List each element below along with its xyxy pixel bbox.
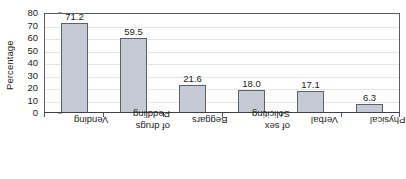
x-axis-category-label-line: Physical bbox=[370, 115, 405, 126]
bar-slot: 59.5 bbox=[104, 14, 163, 112]
x-axis-category-label: Physical bbox=[370, 115, 405, 126]
y-axis-tick-label: 40 bbox=[27, 58, 38, 68]
x-label-slot: Solicitingof sex bbox=[222, 118, 281, 176]
bar-slot: 18.0 bbox=[222, 14, 281, 112]
y-axis-tick-label: 20 bbox=[27, 83, 38, 93]
bar[interactable] bbox=[120, 38, 147, 112]
y-axis-tick-labels: 01020304050607080 bbox=[18, 8, 40, 113]
bar-slot: 71.2 bbox=[45, 14, 104, 112]
bar-chart-figure: Percentage 01020304050607080 71.259.521.… bbox=[0, 0, 406, 179]
bar-value-label: 21.6 bbox=[183, 74, 202, 84]
y-axis-tick-label: 50 bbox=[27, 46, 38, 56]
x-label-slot: Verbal bbox=[281, 118, 340, 176]
y-axis-tick-label: 80 bbox=[27, 8, 38, 18]
x-axis-tick-mark bbox=[44, 113, 45, 117]
x-label-slot: Vending bbox=[44, 118, 103, 176]
bar-value-label: 6.3 bbox=[363, 93, 376, 103]
y-axis-tick-label: 70 bbox=[27, 21, 38, 31]
x-axis-tick-mark bbox=[341, 113, 342, 117]
bar-value-label: 59.5 bbox=[124, 27, 143, 37]
bar-value-label: 71.2 bbox=[65, 12, 84, 22]
x-label-slot: Physical bbox=[341, 118, 400, 176]
plot-area: 71.259.521.618.017.16.3 bbox=[44, 13, 400, 113]
y-axis-title: Percentage bbox=[1, 18, 17, 112]
bars-layer: 71.259.521.618.017.16.3 bbox=[45, 14, 399, 112]
bar-slot: 17.1 bbox=[281, 14, 340, 112]
bar-value-label: 17.1 bbox=[301, 80, 320, 90]
y-axis-tick-label: 10 bbox=[27, 96, 38, 106]
bar-slot: 21.6 bbox=[163, 14, 222, 112]
bar[interactable] bbox=[356, 104, 383, 112]
x-label-slot: Peddlingof drugs bbox=[103, 118, 162, 176]
y-axis-tick-label: 60 bbox=[27, 33, 38, 43]
bar-value-label: 18.0 bbox=[242, 79, 261, 89]
y-axis-tick-label: 0 bbox=[33, 108, 38, 118]
y-axis-tick-label: 30 bbox=[27, 71, 38, 81]
x-axis-category-label: Verbal bbox=[311, 115, 338, 126]
x-axis-category-label-line: Verbal bbox=[311, 115, 338, 126]
x-axis-category-labels: VendingPeddlingof drugsBeggarsSoliciting… bbox=[44, 118, 400, 176]
bar[interactable] bbox=[297, 91, 324, 112]
x-label-slot: Beggars bbox=[163, 118, 222, 176]
bar-slot: 6.3 bbox=[340, 14, 399, 112]
bar[interactable] bbox=[179, 85, 206, 112]
bar[interactable] bbox=[61, 23, 88, 112]
